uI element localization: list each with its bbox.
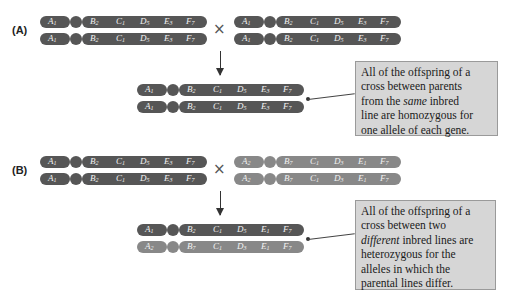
centromere [70,173,82,185]
gene-allele-f7: F7 [186,15,195,30]
connector-line [308,93,355,100]
gene-allele-f7: F7 [186,155,195,170]
gene-allele-b7: B7 [284,155,293,170]
gene-allele-d5: D5 [140,32,150,47]
gene-allele-f7: F7 [380,32,389,47]
gene-allele-d3: D3 [237,240,247,255]
cross-symbol: × [213,160,226,178]
gene-allele-e3: E3 [164,172,173,187]
gene-allele-f7: F7 [283,100,292,115]
gene-allele-c1: C1 [213,83,222,98]
gene-allele-a1: A1 [145,83,154,98]
gene-allele-c1: C1 [116,15,125,30]
gene-allele-c1: C1 [310,15,319,30]
panel-b-offspring-chromosome-1: A1B2C1D5E1F7 [137,224,304,236]
gene-allele-b2: B2 [284,15,293,30]
panel-a-callout: All of the offspring of a cross between … [355,61,498,136]
gene-allele-a1: A1 [242,32,251,47]
gene-allele-d5: D5 [140,155,150,170]
gene-allele-e3: E3 [164,155,173,170]
gene-allele-c1: C1 [213,223,222,238]
gene-allele-f7: F7 [380,172,389,187]
gene-allele-d3: D3 [334,172,344,187]
gene-allele-b2: B2 [284,32,293,47]
gene-allele-f7: F7 [380,155,389,170]
gene-allele-c1: C1 [116,172,125,187]
gene-allele-b2: B2 [187,223,196,238]
gene-allele-e3: E3 [261,100,270,115]
callout-line: alleles in which the [361,262,490,276]
gene-allele-a1: A1 [242,15,251,30]
centromere [167,101,179,113]
gene-allele-c1: C1 [116,155,125,170]
panel-a-label: (A) [12,24,27,36]
gene-allele-a2: A2 [242,155,251,170]
gene-allele-b2: B2 [187,83,196,98]
gene-allele-c1: C1 [213,100,222,115]
gene-allele-b2: B2 [90,32,99,47]
centromere [264,156,276,168]
gene-allele-d5: D5 [140,15,150,30]
gene-allele-e1: E1 [261,240,270,255]
down-arrow-icon [220,51,221,75]
callout-line: one allele of each gene. [361,123,492,137]
emphasis-different: different [361,234,400,246]
gene-allele-c1: C1 [310,32,319,47]
centromere [264,33,276,45]
centromere [167,224,179,236]
gene-allele-e3: E3 [358,32,367,47]
gene-allele-c1: C1 [213,240,222,255]
gene-allele-a1: A1 [48,155,57,170]
gene-allele-c1: C1 [116,32,125,47]
gene-allele-c1: C1 [310,172,319,187]
gene-allele-f7: F7 [283,240,292,255]
gene-allele-d5: D5 [334,32,344,47]
panel-a-parent2-chromosome-1: A1B2C1D5E3F7 [234,16,401,28]
gene-allele-f7: F7 [186,172,195,187]
centromere [264,16,276,28]
panel-b-label: (B) [12,164,27,176]
panel-b-parent1-chromosome-1: A1B2C1D5E3F7 [40,156,207,168]
gene-allele-b2: B2 [90,15,99,30]
gene-allele-d5: D5 [237,223,247,238]
centromere [70,156,82,168]
centromere [70,16,82,28]
callout-line: heterozygous for the [361,247,490,261]
panel-a-parent1-chromosome-2: A1B2C1D5E3F7 [40,33,207,45]
callout-line: parental lines differ. [361,276,490,290]
centromere [264,173,276,185]
cross-symbol: × [213,20,226,38]
centromere [167,241,179,253]
gene-allele-f7: F7 [283,223,292,238]
gene-allele-d5: D5 [334,15,344,30]
panel-a-parent1-chromosome-1: A1B2C1D5E3F7 [40,16,207,28]
gene-allele-b2: B2 [187,100,196,115]
callout-line: different inbred lines are [361,233,490,247]
panel-b-callout: All of the offspring of a cross between … [355,200,496,290]
gene-allele-e1: E1 [358,155,367,170]
gene-allele-b2: B2 [90,172,99,187]
callout-line: All of the offspring of a [361,204,490,218]
panel-a-parent2-chromosome-2: A1B2C1D5E3F7 [234,33,401,45]
callout-line: All of the offspring of a [361,65,492,79]
gene-allele-b7: B7 [284,172,293,187]
gene-allele-c1: C1 [310,155,319,170]
callout-line: cross between parents [361,79,492,93]
gene-allele-f7: F7 [283,83,292,98]
centromere [70,33,82,45]
panel-b-parent2-chromosome-2: A2B7C1D3E1F7 [234,173,401,185]
gene-allele-d5: D5 [237,100,247,115]
gene-allele-e1: E1 [358,172,367,187]
down-arrow-icon [220,191,221,215]
gene-allele-d5: D5 [237,83,247,98]
gene-allele-b7: B7 [187,240,196,255]
connector-line [308,233,355,240]
gene-allele-e1: E1 [261,223,270,238]
gene-allele-f7: F7 [380,15,389,30]
panel-b-parent1-chromosome-2: A1B2C1D5E3F7 [40,173,207,185]
panel-a-offspring-chromosome-2: A1B2C1D5E3F7 [137,101,304,113]
panel-b-parent2-chromosome-1: A2B7C1D3E1F7 [234,156,401,168]
gene-allele-a1: A1 [145,223,154,238]
gene-allele-a1: A1 [48,172,57,187]
gene-allele-a1: A1 [48,15,57,30]
